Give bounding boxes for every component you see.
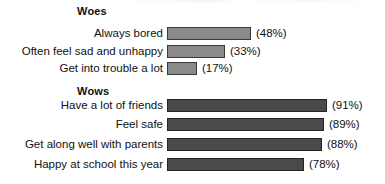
chart-row-woes-1: Often feel sad and unhappy (33%) [0, 44, 385, 59]
bar-track [167, 138, 322, 151]
woes-wows-bar-chart: Woes Always bored (48%) Often feel sad a… [0, 0, 385, 184]
row-label: Often feel sad and unhappy [0, 44, 163, 59]
bar-track [167, 27, 251, 40]
row-label: Always bored [0, 26, 163, 41]
bar-wows-0 [167, 99, 327, 112]
chart-row-wows-3: Happy at school this year (78%) [0, 157, 385, 172]
group-heading-woes: Woes [77, 5, 107, 18]
row-label: Get along well with parents [0, 137, 163, 152]
chart-row-woes-2: Get into trouble a lot (17%) [0, 61, 385, 76]
bar-track [167, 45, 225, 58]
chart-row-wows-1: Feel safe (89%) [0, 117, 385, 132]
row-value: (88%) [327, 137, 358, 152]
bar-track [167, 158, 304, 171]
row-value: (89%) [329, 117, 360, 132]
bar-track [167, 62, 197, 75]
row-label: Have a lot of friends [0, 98, 163, 113]
cropped-title-artifact [120, 0, 370, 3]
chart-row-wows-2: Get along well with parents (88%) [0, 137, 385, 152]
bar-woes-0 [167, 27, 251, 40]
row-label: Feel safe [0, 117, 163, 132]
group-heading-wows: Wows [77, 85, 109, 98]
row-value: (91%) [332, 98, 363, 113]
chart-row-wows-0: Have a lot of friends (91%) [0, 98, 385, 113]
bar-track [167, 118, 324, 131]
row-value: (17%) [202, 61, 233, 76]
row-value: (33%) [230, 44, 261, 59]
row-value: (48%) [256, 26, 287, 41]
bar-woes-1 [167, 45, 225, 58]
bar-wows-3 [167, 158, 304, 171]
bar-track [167, 99, 327, 112]
bar-woes-2 [167, 62, 197, 75]
chart-row-woes-0: Always bored (48%) [0, 26, 385, 41]
row-label: Get into trouble a lot [0, 61, 163, 76]
bar-wows-2 [167, 138, 322, 151]
row-label: Happy at school this year [0, 157, 163, 172]
bar-wows-1 [167, 118, 324, 131]
row-value: (78%) [309, 157, 340, 172]
